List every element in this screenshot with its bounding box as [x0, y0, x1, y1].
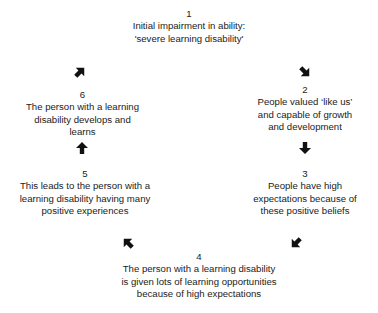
arrow-up-right-icon	[73, 65, 87, 79]
node-text-line: The person with a learning	[15, 101, 150, 113]
node-number: 5	[10, 168, 160, 180]
node-number: 2	[245, 84, 365, 96]
node-number: 1	[104, 8, 274, 20]
node-text-line: is given lots of learning opportunities	[104, 276, 294, 288]
arrow-up-icon	[75, 141, 89, 155]
node-text-line: 'severe learning disability'	[104, 33, 274, 45]
arrow-up-left-icon	[121, 236, 135, 250]
node-text-line: learns	[15, 126, 150, 138]
arrow-down-icon	[298, 141, 312, 155]
node-number: 6	[15, 89, 150, 101]
cycle-node-6: 6 The person with a learning disability …	[15, 89, 150, 139]
node-text-line: these positive beliefs	[240, 205, 370, 217]
node-text-line: The person with a learning disability	[104, 263, 294, 275]
cycle-node-3: 3 People have high expectations because …	[240, 168, 370, 218]
node-text-line: positive experiences	[10, 205, 160, 217]
node-text-line: This leads to the person with a	[10, 180, 160, 192]
cycle-node-5: 5 This leads to the person with a learni…	[10, 168, 160, 218]
node-text-line: expectations because of	[240, 193, 370, 205]
node-number: 3	[240, 168, 370, 180]
arrow-down-right-icon	[298, 65, 312, 79]
node-text-line: Initial impairment in ability:	[104, 20, 274, 32]
node-number: 4	[104, 251, 294, 263]
cycle-node-1: 1 Initial impairment in ability: 'severe…	[104, 8, 274, 45]
node-text-line: People valued ‘like us’	[245, 96, 365, 108]
node-text-line: disability develops and	[15, 114, 150, 126]
cycle-node-2: 2 People valued ‘like us’ and capable of…	[245, 84, 365, 134]
arrow-down-left-icon	[289, 236, 303, 250]
node-text-line: learning disability having many	[10, 193, 160, 205]
node-text-line: and development	[245, 121, 365, 133]
node-text-line: because of high expectations	[104, 288, 294, 300]
cycle-node-4: 4 The person with a learning disability …	[104, 251, 294, 301]
node-text-line: and capable of growth	[245, 109, 365, 121]
node-text-line: People have high	[240, 180, 370, 192]
